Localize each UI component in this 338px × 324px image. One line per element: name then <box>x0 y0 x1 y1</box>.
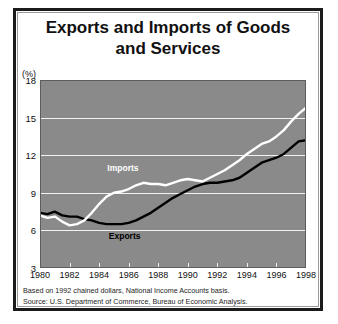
x-axis-tick-label: 1992 <box>207 270 227 280</box>
series-label-imports: Imports <box>107 163 138 173</box>
chart-title-line-1: Exports and Imports of Goods <box>46 18 291 37</box>
y-axis-tick-label: 9 <box>31 187 36 198</box>
chart-title: Exports and Imports of Goods and Service… <box>24 17 312 59</box>
plot-area: Imports Exports <box>40 80 306 268</box>
chart-figure: Exports and Imports of Goods and Service… <box>0 0 338 324</box>
data-lines <box>40 80 306 268</box>
series-line-imports <box>40 108 306 226</box>
x-axis-tick-label: 1980 <box>30 270 50 280</box>
x-axis-tick-label: 1988 <box>148 270 168 280</box>
series-label-exports: Exports <box>109 231 141 241</box>
x-axis-tick-label: 1986 <box>119 270 139 280</box>
x-axis-tick-label: 1994 <box>237 270 257 280</box>
y-axis-labels: 369121518 <box>18 80 36 268</box>
x-axis-tick-label: 1990 <box>178 270 198 280</box>
x-axis-labels: 1980198219841986198819901992199419961998 <box>40 270 306 284</box>
y-axis-tick-label: 15 <box>25 112 36 123</box>
x-axis-tick-label: 1996 <box>266 270 286 280</box>
y-axis-tick-label: 6 <box>31 225 36 236</box>
y-axis-tick-label: 18 <box>25 75 36 86</box>
x-axis-tick-label: 1998 <box>296 270 316 280</box>
footnote-source: Source: U.S. Department of Commerce, Bur… <box>23 296 313 307</box>
y-axis-tick-label: 12 <box>25 150 36 161</box>
x-axis-tick-label: 1984 <box>89 270 109 280</box>
chart-title-line-2: and Services <box>24 38 312 59</box>
footnotes: Based on 1992 chained dollars, National … <box>23 285 313 307</box>
footnote-basis: Based on 1992 chained dollars, National … <box>23 285 313 296</box>
x-axis-tick-label: 1982 <box>60 270 80 280</box>
